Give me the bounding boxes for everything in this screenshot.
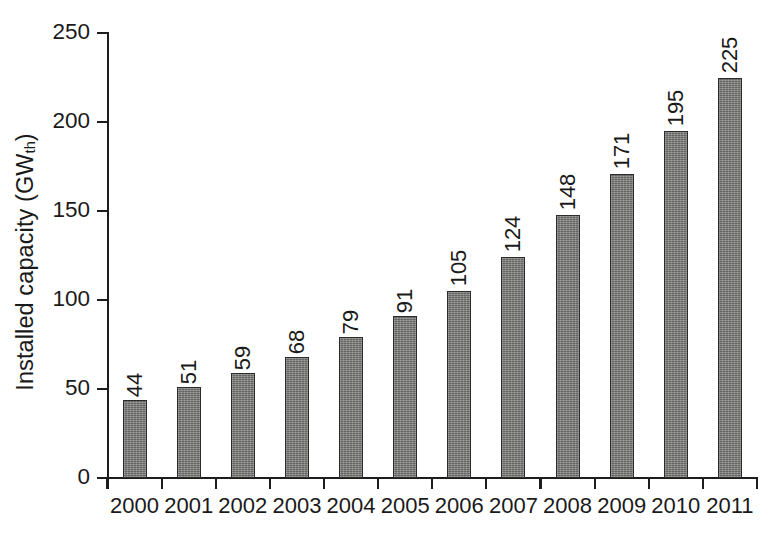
x-axis-tick <box>756 477 758 489</box>
bar-value-label: 51 <box>177 341 201 403</box>
bar <box>285 357 309 478</box>
bar-value-label: 79 <box>339 291 363 353</box>
bar-value-label: 148 <box>556 161 580 223</box>
x-axis-tick <box>702 477 704 489</box>
bar <box>501 257 525 478</box>
bar-chart: Installed capacity (GWth) 05010015020025… <box>0 0 780 542</box>
y-axis-tick <box>97 121 108 123</box>
y-axis-tick-label: 0 <box>28 466 90 488</box>
bar-value-label: 91 <box>393 270 417 332</box>
y-axis-title-subscript: th <box>22 141 38 153</box>
x-axis-tick <box>539 477 541 489</box>
x-axis-tick-label: 2003 <box>270 494 324 518</box>
bar <box>556 215 580 478</box>
x-axis-tick-label: 2001 <box>162 494 216 518</box>
bar-value-label: 105 <box>447 237 471 299</box>
x-axis-tick-label: 2007 <box>486 494 540 518</box>
x-axis-tick-label: 2006 <box>432 494 486 518</box>
y-axis-tick-label: 150 <box>28 199 90 221</box>
y-axis-tick <box>97 299 108 301</box>
x-axis-tick-label: 2005 <box>378 494 432 518</box>
y-axis-tick-label: 50 <box>28 377 90 399</box>
x-axis-tick-label: 2011 <box>703 494 757 518</box>
x-axis-tick-label: 2010 <box>649 494 703 518</box>
x-axis-tick <box>269 477 271 489</box>
bar-value-label: 44 <box>123 354 147 416</box>
x-axis-tick-label: 2008 <box>541 494 595 518</box>
bar-value-label: 124 <box>501 203 525 265</box>
bar <box>610 174 634 478</box>
x-axis-tick <box>161 477 163 489</box>
y-axis-title-main: Installed capacity (GW <box>12 153 39 390</box>
x-axis-tick-label: 2000 <box>108 494 162 518</box>
bar-value-label: 171 <box>610 120 634 182</box>
y-axis-line <box>107 32 109 479</box>
x-axis-tick <box>594 477 596 489</box>
bar <box>718 78 742 479</box>
y-axis-tick-label: 250 <box>28 21 90 43</box>
bar-value-label: 68 <box>285 311 309 373</box>
x-axis-tick-label: 2009 <box>595 494 649 518</box>
x-axis-tick <box>648 477 650 489</box>
bar-value-label: 59 <box>231 327 255 389</box>
y-axis-title-tail: ) <box>12 133 39 141</box>
x-axis-tick <box>485 477 487 489</box>
bar <box>664 131 688 478</box>
y-axis-tick <box>97 388 108 390</box>
x-axis-tick <box>106 477 108 489</box>
y-axis-tick <box>97 210 108 212</box>
x-axis-tick <box>377 477 379 489</box>
bar-value-label: 225 <box>718 24 742 86</box>
x-axis-tick <box>431 477 433 489</box>
y-axis-tick <box>97 32 108 34</box>
x-axis-tick <box>323 477 325 489</box>
y-axis-tick-label: 100 <box>28 288 90 310</box>
bar <box>447 291 471 478</box>
x-axis-tick-label: 2004 <box>324 494 378 518</box>
bar <box>393 316 417 478</box>
y-axis-tick-label: 200 <box>28 110 90 132</box>
bar <box>339 337 363 478</box>
bar-value-label: 195 <box>664 77 688 139</box>
x-axis-tick <box>215 477 217 489</box>
y-axis-title: Installed capacity (GWth) <box>8 12 42 512</box>
x-axis-tick-label: 2002 <box>216 494 270 518</box>
